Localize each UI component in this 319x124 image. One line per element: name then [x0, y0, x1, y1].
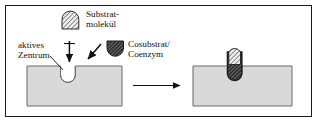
- cosubstrate-label-line1: Cosubstrat/: [128, 39, 170, 49]
- cosubstrate-label-line2: Coenzym: [128, 49, 163, 59]
- substrate-icon: [62, 11, 79, 29]
- substrate-label: Substrat- molekül: [86, 10, 119, 30]
- substrate-entry-arrow: [64, 41, 75, 62]
- substrate-label-line2: molekül: [86, 19, 116, 29]
- cosubstrate-entry-arrow: [88, 44, 101, 59]
- enzyme-substrate-diagram: Substrat- molekül Cosubstrat/ Coenzym ak…: [0, 0, 319, 124]
- bound-substrate-complex: [228, 48, 242, 80]
- active-site-label-line1: aktives: [18, 40, 44, 50]
- diagram-graphics: [0, 0, 319, 124]
- left-enzyme-block: [27, 66, 122, 106]
- substrate-label-line1: Substrat-: [86, 9, 119, 19]
- cosubstrate-icon: [107, 41, 124, 56]
- active-site-label: aktives Zentrum: [18, 41, 50, 61]
- cosubstrate-label: Cosubstrat/ Coenzym: [128, 40, 170, 60]
- active-site-label-line2: Zentrum: [18, 50, 50, 60]
